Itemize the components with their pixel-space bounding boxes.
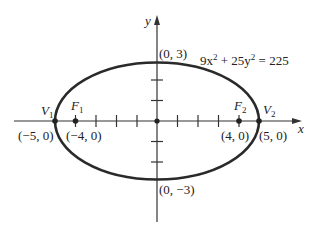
vertex-v1-label: V1: [41, 103, 53, 120]
focus-f1-coord: (−4, 0): [66, 128, 102, 143]
vertex-v1-coord: (−5, 0): [18, 128, 54, 143]
ellipse-diagram: y x 9x2 + 25y2 = 225 (0, 3) (0, −3) V1 F…: [0, 0, 315, 235]
vertex-v2-dot: [256, 118, 262, 124]
vertex-v2-label: V2: [263, 102, 275, 119]
y-axis-label: y: [143, 13, 151, 28]
focus-f2-coord: (4, 0): [221, 128, 249, 143]
focus-f2-label: F2: [233, 98, 246, 115]
y-axis-arrow-icon: [154, 15, 160, 25]
focus-f1-label: F1: [70, 98, 83, 115]
origin-dot: [154, 118, 159, 123]
bottom-vertex-coord: (0, −3): [159, 182, 195, 197]
top-vertex-coord: (0, 3): [159, 46, 187, 61]
ellipse-equation: 9x2 + 25y2 = 225: [200, 52, 289, 68]
focus-f1-dot: [73, 118, 79, 124]
vertex-v2-coord: (5, 0): [259, 128, 287, 143]
x-axis-label: x: [297, 121, 304, 136]
focus-f2-dot: [236, 118, 242, 124]
